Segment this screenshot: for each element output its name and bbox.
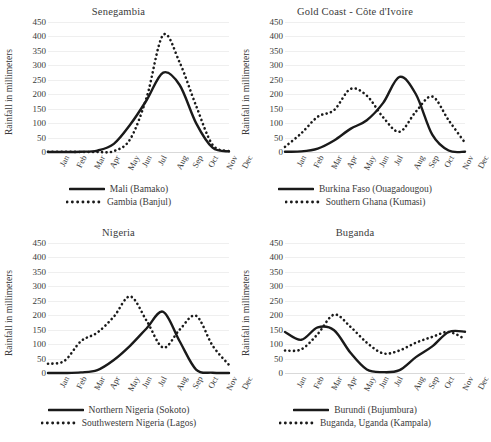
x-axis-tick-label: Oct <box>207 375 220 390</box>
y-axis-tick-label: 250 <box>20 296 46 305</box>
legend-item[interactable]: Southern Ghana (Kumasi) <box>285 197 426 207</box>
y-axis-label: Rainfall in millimeters <box>2 249 16 377</box>
y-axis-tick-label: 250 <box>20 75 46 84</box>
x-axis-tick-label: Mar <box>329 154 343 171</box>
y-axis-tick-label: 450 <box>257 239 283 248</box>
y-axis-tick-label: 300 <box>20 61 46 70</box>
gridline <box>285 152 465 153</box>
chart-legend: Northern Nigeria (Sokoto)Southwestern Ni… <box>0 405 237 428</box>
x-axis-tick-label: Feb <box>312 154 325 169</box>
legend-solid-line-icon <box>69 184 105 194</box>
legend-item[interactable]: Burundi (Bujumbura) <box>293 405 417 415</box>
x-axis-tick-label: Nov <box>460 154 474 171</box>
y-axis-tick-label: 0 <box>257 148 283 157</box>
chart-title: Buganda <box>237 227 473 238</box>
y-axis-tick-label: 350 <box>257 46 283 55</box>
plot-canvas <box>285 22 465 152</box>
x-axis-tick-label: Dec <box>476 375 490 391</box>
legend-label: Burkina Faso (Ouagadougou) <box>319 184 432 194</box>
y-axis-tick-label: 300 <box>20 282 46 291</box>
plot-area: 050100150200250300350400450 JanFebMarApr… <box>253 243 467 419</box>
legend-item[interactable]: Gambia (Banjul) <box>66 197 171 207</box>
x-axis-tick-label: May <box>363 154 378 172</box>
x-axis-tick-label: Jul <box>392 154 404 167</box>
y-axis-tick-label: 0 <box>20 369 46 378</box>
legend-label: Mali (Bamako) <box>110 184 168 194</box>
x-axis-tick-label: May <box>363 375 378 393</box>
plot-canvas <box>48 243 229 373</box>
y-axis-label: Rainfall in millimeters <box>239 249 253 377</box>
x-axis-tick-label: Oct <box>207 154 220 169</box>
legend-item[interactable]: Northern Nigeria (Sokoto) <box>48 405 190 415</box>
y-axis-tick-label: 150 <box>20 325 46 334</box>
legend-label: Burundi (Bujumbura) <box>334 405 417 415</box>
legend-solid-line-icon <box>278 184 314 194</box>
series-line <box>285 315 465 354</box>
x-axis-tick-label: Aug <box>411 375 425 392</box>
x-axis-tick-label: Jun <box>377 375 390 389</box>
y-axis-tick-label: 400 <box>20 253 46 262</box>
x-axis-tick-label: Jul <box>392 375 404 388</box>
y-axis-tick-label: 400 <box>20 32 46 41</box>
y-axis-tick-label: 100 <box>20 340 46 349</box>
legend-dotted-line-icon <box>285 197 321 207</box>
legend-item[interactable]: Buganda, Uganda (Kampala) <box>279 418 431 428</box>
y-axis-tick-label: 400 <box>257 253 283 262</box>
y-axis-tick-label: 350 <box>20 267 46 276</box>
y-axis-tick-label: 250 <box>257 75 283 84</box>
legend-dotted-line-icon <box>41 418 77 428</box>
legend-item[interactable]: Mali (Bamako) <box>69 184 168 194</box>
x-axis-tick-label: Apr <box>108 154 122 170</box>
y-axis-tick-label: 0 <box>257 369 283 378</box>
chart-legend: Mali (Bamako)Gambia (Banjul) <box>0 184 237 207</box>
series-line <box>285 88 465 146</box>
y-axis-tick-label: 50 <box>20 354 46 363</box>
legend-label: Northern Nigeria (Sokoto) <box>89 405 190 415</box>
chart-panel-nigeria: Nigeria Rainfall in millimeters 05010015… <box>0 221 237 442</box>
legend-label: Buganda, Uganda (Kampala) <box>320 418 431 428</box>
y-axis-tick-label: 300 <box>257 282 283 291</box>
y-axis-tick-label: 50 <box>257 133 283 142</box>
y-axis-tick-label: 100 <box>20 119 46 128</box>
x-axis-tick-label: Feb <box>75 375 88 390</box>
y-axis-tick-label: 150 <box>257 325 283 334</box>
chart-title: Senegambia <box>0 6 237 17</box>
plot-area: 050100150200250300350400450 JanFebMarApr… <box>16 22 231 198</box>
y-axis-tick-label: 200 <box>257 90 283 99</box>
series-layer <box>285 22 465 152</box>
chart-panel-buganda: Buganda Rainfall in millimeters 05010015… <box>237 221 473 442</box>
x-axis-tick-label: Jun <box>141 375 154 389</box>
chart-panel-gold-coast: Gold Coast - Côte d'Ivoire Rainfall in m… <box>237 0 473 221</box>
legend-dotted-line-icon <box>66 197 102 207</box>
y-axis-tick-label: 200 <box>20 311 46 320</box>
legend-label: Southern Ghana (Kumasi) <box>326 197 426 207</box>
y-axis-ticks: 050100150200250300350400450 <box>16 243 46 373</box>
y-axis-tick-label: 450 <box>20 18 46 27</box>
legend-item[interactable]: Burkina Faso (Ouagadougou) <box>278 184 432 194</box>
series-line <box>48 312 229 374</box>
x-axis-tick-label: Apr <box>108 375 122 391</box>
y-axis-tick-label: 250 <box>257 296 283 305</box>
plot-area: 050100150200250300350400450 JanFebMarApr… <box>253 22 467 198</box>
series-layer <box>285 243 465 373</box>
y-axis-tick-label: 200 <box>20 90 46 99</box>
plot-canvas <box>285 243 465 373</box>
x-axis-tick-label: Aug <box>411 154 425 171</box>
y-axis-tick-label: 50 <box>20 133 46 142</box>
x-axis-tick-label: Jan <box>58 375 71 389</box>
x-axis-tick-label: Dec <box>476 154 490 170</box>
legend-item[interactable]: Southwestern Nigeria (Lagos) <box>41 418 197 428</box>
x-axis-tick-label: Aug <box>175 375 189 392</box>
y-axis-tick-label: 300 <box>257 61 283 70</box>
y-axis-tick-label: 0 <box>20 148 46 157</box>
y-axis-tick-label: 50 <box>257 354 283 363</box>
y-axis-label: Rainfall in millimeters <box>239 28 253 156</box>
legend-solid-line-icon <box>48 405 84 415</box>
plot-area: 050100150200250300350400450 JanFebMarApr… <box>16 243 231 419</box>
y-axis-tick-label: 450 <box>20 239 46 248</box>
legend-solid-line-icon <box>293 405 329 415</box>
chart-legend: Burundi (Bujumbura)Buganda, Uganda (Kamp… <box>237 405 473 428</box>
x-axis-tick-label: Sep <box>190 154 203 169</box>
x-axis-tick-label: Jul <box>156 375 168 388</box>
x-axis-tick-label: Oct <box>443 375 456 390</box>
